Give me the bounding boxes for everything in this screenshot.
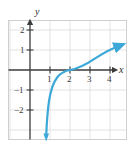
y-tick-label-neg2: −2 [14,106,24,115]
y-tick-label-2: 2 [20,26,25,35]
x-axis-label: x [119,65,123,75]
plot-area [0,0,135,145]
x-tick-label-3: 3 [87,75,92,84]
y-tick-label-1: 1 [20,46,25,55]
figure-container: y x 2 1 −1 −2 1 2 3 4 [0,0,135,145]
x-tick-label-1: 1 [47,75,52,84]
y-axis-label: y [35,7,39,17]
y-tick-label-neg1: −1 [14,86,24,95]
x-tick-label-4: 4 [107,75,112,84]
x-tick-label-2: 2 [67,75,72,84]
